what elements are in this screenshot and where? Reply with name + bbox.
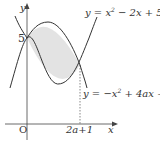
downward-parabola-equation: y = −x2 + 4ax + 5	[83, 88, 160, 99]
upward-parabola-equation: y = x2 − 2x + 5	[85, 7, 160, 18]
y-intercept-label: 5	[18, 33, 25, 44]
equation-text: y = −x	[83, 88, 117, 99]
y-axis-label: y	[20, 3, 26, 13]
shaded-region	[27, 27, 80, 79]
equation-text: y = x	[85, 7, 111, 18]
x-axis-label: x	[108, 125, 114, 135]
equation-text: − 2x + 5	[115, 7, 160, 18]
x-intersection-label: 2a+1	[66, 125, 93, 135]
origin-label: O	[19, 125, 27, 135]
diagram: y 5 O x 2a+1 y = x2 − 2x + 5 y = −x2 + 4…	[0, 0, 160, 145]
equation-text: + 4ax + 5	[121, 88, 160, 99]
